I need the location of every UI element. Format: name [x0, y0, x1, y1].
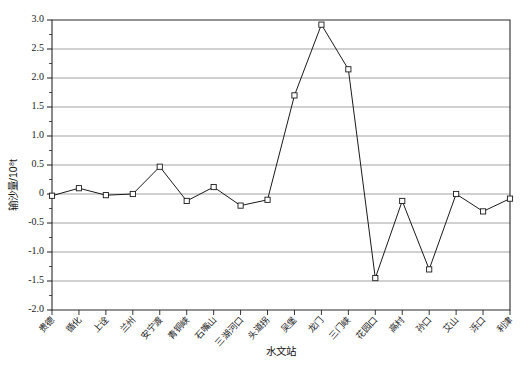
- x-axis-tick-label: 三门峡: [327, 314, 353, 341]
- x-axis-title: 水文站: [266, 345, 297, 357]
- y-axis-tick-label: -1.5: [28, 274, 44, 285]
- x-axis-tick-label: 泺口: [467, 314, 487, 335]
- y-axis-tick-label: 2.5: [32, 42, 45, 53]
- x-axis-tick-labels-group: 贵德循化上诠兰州安宁渡青铜峡石嘴山三湖河口头道拐吴堡龙门三门峡花园口高村孙口艾山…: [36, 314, 514, 348]
- y-axis-ticks-group: [47, 20, 52, 310]
- chart-container: 3.02.52.01.51.00.50-0.5-1.0-1.5-2.0 贵德循化…: [0, 0, 530, 373]
- y-axis-tick-label: 0.5: [32, 158, 45, 169]
- data-point-marker: [265, 197, 270, 202]
- x-axis-tick-label: 石嘴山: [193, 315, 218, 342]
- data-point-marker: [76, 186, 81, 191]
- y-axis-tick-label: 0: [39, 187, 44, 198]
- y-axis-tick-label: 1.0: [32, 129, 45, 140]
- data-point-marker: [130, 191, 135, 196]
- data-series-group: [49, 22, 512, 281]
- x-axis-tick-label: 龙门: [306, 314, 326, 335]
- x-axis-tick-label: 兰州: [117, 314, 137, 335]
- y-axis-tick-label: -1.0: [28, 245, 44, 256]
- y-axis-tick-label: -0.5: [28, 216, 44, 227]
- data-point-marker: [373, 276, 378, 281]
- x-axis-tick-label: 吴堡: [279, 314, 299, 335]
- x-axis-tick-label: 三湖河口: [213, 314, 245, 348]
- x-axis-ticks-group: [52, 310, 510, 315]
- x-axis-tick-label: 高村: [387, 314, 407, 335]
- x-axis-tick-label: 上诠: [90, 314, 110, 335]
- x-axis-tick-label: 循化: [63, 314, 83, 335]
- data-point-marker: [454, 191, 459, 196]
- data-point-marker: [507, 196, 512, 201]
- data-point-marker: [346, 67, 351, 72]
- x-axis-tick-label: 安宁渡: [138, 314, 164, 341]
- x-axis-tick-label: 头道拐: [246, 314, 272, 341]
- x-axis-tick-label: 利津: [494, 314, 514, 335]
- data-point-marker: [238, 203, 243, 208]
- x-axis-tick-label: 花园口: [354, 314, 380, 341]
- data-point-marker: [211, 184, 216, 189]
- y-axis-tick-label: -2.0: [28, 303, 44, 314]
- data-point-marker: [427, 267, 432, 272]
- x-axis-tick-label: 贵德: [36, 314, 56, 335]
- x-axis-tick-label: 艾山: [441, 315, 460, 335]
- y-axis-title: 输沙量/10⁸t: [7, 159, 19, 211]
- y-axis-tick-label: 2.0: [32, 71, 45, 82]
- data-point-marker: [480, 209, 485, 214]
- gridlines-group: [52, 49, 510, 281]
- data-point-marker: [292, 93, 297, 98]
- data-point-marker: [103, 193, 108, 198]
- data-point-markers: [49, 22, 512, 281]
- y-axis-tick-labels-group: 3.02.52.01.51.00.50-0.5-1.0-1.5-2.0: [28, 13, 44, 314]
- line-chart: 3.02.52.01.51.00.50-0.5-1.0-1.5-2.0 贵德循化…: [0, 0, 530, 373]
- data-point-marker: [184, 198, 189, 203]
- data-point-marker: [319, 22, 324, 27]
- x-axis-tick-label: 青铜峡: [165, 314, 191, 341]
- data-point-marker: [49, 193, 54, 198]
- y-axis-tick-label: 1.5: [32, 100, 45, 111]
- series-line-shachangliang: [52, 25, 510, 278]
- data-point-marker: [157, 164, 162, 169]
- y-axis-tick-label: 3.0: [32, 13, 45, 24]
- x-axis-tick-label: 孙口: [413, 314, 433, 335]
- data-point-marker: [400, 198, 405, 203]
